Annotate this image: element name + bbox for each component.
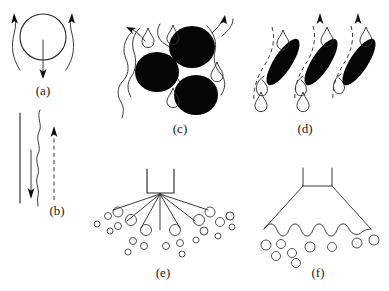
panel-e-droplet: [115, 223, 122, 230]
panel-e-spray-line-5: [160, 194, 180, 228]
panel-e-label: (e): [156, 265, 170, 280]
panel-e-droplet: [216, 218, 225, 227]
panel-e-droplet: [163, 243, 170, 250]
figure-container: (a) (b): [0, 0, 389, 291]
panel-d-ligament-1: [261, 34, 306, 89]
panel-e-droplet: [200, 227, 208, 235]
panel-a-group: (a): [11, 13, 75, 98]
panel-e-group: (e): [94, 169, 235, 280]
panel-d-tail-1: [256, 76, 267, 96]
panel-f-group: (f): [261, 168, 379, 280]
panel-e-spray-line-2: [127, 194, 160, 221]
panel-e-droplet: [125, 249, 131, 255]
panel-c-arrowhead-right: [220, 15, 227, 24]
panel-c-drop-middle-left: [135, 52, 179, 92]
panel-a-label: (a): [36, 83, 50, 98]
panel-e-spray-line-6: [160, 194, 195, 221]
panel-c-label: (c): [173, 121, 187, 136]
panel-e-nozzle: [147, 169, 174, 193]
panel-b-group: (b): [20, 110, 65, 218]
panel-e-droplet: [94, 221, 100, 227]
panel-e-droplet: [215, 233, 221, 239]
panel-f-droplet: [272, 252, 281, 261]
panel-c-streamline-left-outer: [118, 33, 131, 118]
panel-f-sheet-left-edge: [264, 186, 303, 229]
panel-e-droplet: [141, 243, 148, 250]
panel-c-droplet-3: [211, 62, 223, 82]
panel-a-streamline-left: [12, 19, 20, 70]
panel-e-droplet: [229, 224, 235, 230]
panel-f-wavy-breakup-edge: [264, 224, 371, 236]
panel-e-droplet: [126, 215, 137, 226]
droplet-breakup-diagram: (a) (b): [0, 0, 389, 291]
panel-c-drop-lower-right: [174, 75, 218, 115]
panel-f-droplet: [288, 249, 297, 258]
panel-e-droplet: [226, 212, 234, 220]
panel-e-droplet: [177, 240, 184, 247]
panel-f-droplet: [261, 240, 271, 250]
panel-d-label: (d): [297, 121, 312, 136]
panel-c-drop-upper-right: [169, 26, 215, 68]
panel-d-group: (d): [254, 13, 381, 136]
panel-a-streamline-right: [66, 19, 74, 70]
panel-f-label: (f): [312, 265, 325, 280]
panel-e-spray-line-7: [160, 194, 208, 210]
panel-e-droplet: [205, 207, 215, 217]
panel-e-droplet: [130, 238, 137, 245]
panel-c-group: (c): [118, 15, 233, 136]
panel-f-sheet-right-edge: [332, 186, 371, 229]
panel-e-droplet: [105, 213, 112, 220]
panel-d-arrowhead-1: [317, 13, 324, 24]
panel-a-arrowhead-left-up: [11, 13, 18, 24]
panel-c-droplet-1: [142, 28, 154, 48]
panel-f-droplet: [277, 240, 286, 249]
panel-e-droplet: [107, 228, 113, 234]
panel-e-droplet: [193, 237, 199, 243]
panel-f-droplet: [292, 259, 301, 268]
panel-b-wavy-jet: [37, 110, 41, 206]
panel-a-arrowhead-right-up: [68, 13, 75, 24]
panel-d-ligament-3: [337, 34, 382, 89]
panel-d-arrowhead-2: [355, 13, 362, 24]
panel-f-droplet: [352, 238, 362, 248]
panel-f-droplet: [369, 235, 379, 245]
panel-e-droplet: [194, 215, 205, 226]
panel-f-droplet: [328, 243, 337, 252]
panel-f-droplet: [305, 242, 315, 252]
panel-b-arrowhead-up: [51, 126, 58, 137]
panel-e-droplet: [141, 225, 152, 236]
panel-e-droplet: [170, 225, 181, 236]
panel-e-droplet: [179, 251, 185, 257]
panel-b-label: (b): [49, 203, 64, 218]
